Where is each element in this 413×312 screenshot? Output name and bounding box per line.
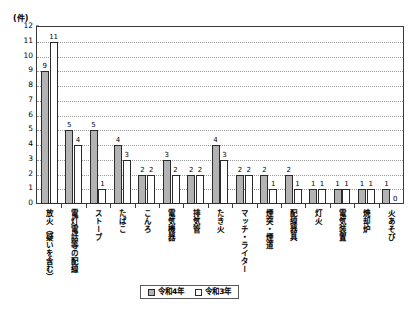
bar-value-label: 1 [100, 180, 104, 188]
bar-value-label: 5 [67, 121, 71, 129]
legend-item: 令和3年 [195, 288, 231, 296]
x-axis-label-13: 焼却炉 [362, 209, 371, 233]
fire-cause-bar-chart: (件) 0123456789101112 9115451432232224322… [0, 0, 413, 312]
x-axis-label-1: 電灯電話等の配線 [69, 209, 78, 273]
legend-label: 令和4年 [158, 288, 184, 296]
bar-value-label: 1 [369, 180, 373, 188]
bar [138, 175, 146, 205]
bar-value-label: 2 [262, 166, 266, 174]
bar [285, 175, 293, 205]
bar-value-label: 2 [247, 166, 251, 174]
bar [269, 189, 277, 204]
bar-value-label: 2 [140, 166, 144, 174]
bar-value-label: 2 [238, 166, 242, 174]
y-tick-label-12: 12 [23, 22, 33, 30]
bar [382, 189, 390, 204]
x-tick-mark [110, 204, 111, 208]
bar [294, 189, 302, 204]
bar-value-label: 3 [125, 151, 129, 159]
bar-value-label: 1 [344, 180, 348, 188]
bar [41, 71, 49, 204]
y-tick-label-2: 2 [28, 170, 33, 178]
x-tick-mark [257, 204, 258, 208]
bar-value-label: 0 [393, 195, 397, 203]
bar-value-label: 3 [222, 151, 226, 159]
bar-value-label: 2 [149, 166, 153, 174]
bar-value-label: 2 [198, 166, 202, 174]
x-axis-label-8: マッチ・ライター [240, 209, 249, 273]
bar [260, 175, 268, 205]
legend: 令和4年令和3年 [140, 285, 239, 299]
y-tick-label-4: 4 [28, 140, 33, 148]
x-tick-mark [159, 204, 160, 208]
bar-value-label: 4 [76, 136, 80, 144]
bar-value-label: 2 [189, 166, 193, 174]
bars-layer: 9115451432232224322212111111110 [37, 27, 403, 204]
bar-value-label: 1 [295, 180, 299, 188]
bar [309, 189, 317, 204]
bar [220, 160, 228, 204]
bar [147, 175, 155, 205]
bar [163, 160, 171, 204]
bar [114, 145, 122, 204]
y-tick-label-0: 0 [28, 199, 33, 207]
y-tick-label-7: 7 [28, 96, 33, 104]
x-tick-mark [330, 204, 331, 208]
x-axis-label-2: ストーブ [94, 209, 103, 241]
bar [196, 175, 204, 205]
y-tick-label-3: 3 [28, 155, 33, 163]
bar-value-label: 3 [165, 151, 169, 159]
bar [98, 189, 106, 204]
y-tick-label-11: 11 [23, 37, 33, 45]
x-axis-label-3: たばこ [118, 209, 127, 233]
bar-value-label: 11 [49, 33, 58, 41]
legend-swatch-icon [148, 289, 155, 296]
x-tick-mark [86, 204, 87, 208]
x-axis-category-labels: 放火（疑いを含む）電灯電話等の配線ストーブたばここんろ電気機器排気管たき火マッチ… [37, 209, 403, 275]
bar-value-label: 1 [360, 180, 364, 188]
x-tick-mark [379, 204, 380, 208]
legend-label: 令和3年 [205, 288, 231, 296]
bar [236, 175, 244, 205]
bar-value-label: 1 [271, 180, 275, 188]
bar-value-label: 1 [335, 180, 339, 188]
bar [187, 175, 195, 205]
y-tick-label-9: 9 [28, 66, 33, 74]
x-axis-label-9: 煙突・煙道 [264, 209, 273, 249]
y-tick-label-8: 8 [28, 81, 33, 89]
x-tick-mark [281, 204, 282, 208]
y-axis-tick-labels: 0123456789101112 [12, 26, 33, 204]
bar [74, 145, 82, 204]
bar [334, 189, 342, 204]
y-tick-label-6: 6 [28, 111, 33, 119]
x-tick-mark [61, 204, 62, 208]
bar [358, 189, 366, 204]
bar [342, 189, 350, 204]
bar-value-label: 2 [287, 166, 291, 174]
x-tick-mark [208, 204, 209, 208]
bar [367, 189, 375, 204]
x-tick-mark [305, 204, 306, 208]
x-axis-label-11: 灯火 [313, 209, 322, 225]
x-axis-label-4: こんろ [142, 209, 151, 233]
x-axis-label-6: 排気管 [191, 209, 200, 233]
x-tick-mark [135, 204, 136, 208]
bar [172, 175, 180, 205]
bar [245, 175, 253, 205]
bar-value-label: 1 [320, 180, 324, 188]
bar-value-label: 2 [173, 166, 177, 174]
bar-value-label: 1 [311, 180, 315, 188]
x-axis-label-12: 電気装置 [338, 209, 347, 241]
bar-value-label: 9 [43, 62, 47, 70]
bar [65, 130, 73, 204]
x-axis-label-0: 放火（疑いを含む） [45, 209, 54, 281]
x-axis-label-14: 火あそび [386, 209, 395, 241]
x-tick-mark [183, 204, 184, 208]
x-tick-mark [354, 204, 355, 208]
x-axis-label-5: 電気機器 [167, 209, 176, 241]
y-tick-label-10: 10 [23, 52, 33, 60]
bar [123, 160, 131, 204]
bar-value-label: 5 [91, 121, 95, 129]
bar-value-label: 4 [213, 136, 217, 144]
legend-item: 令和4年 [148, 288, 184, 296]
